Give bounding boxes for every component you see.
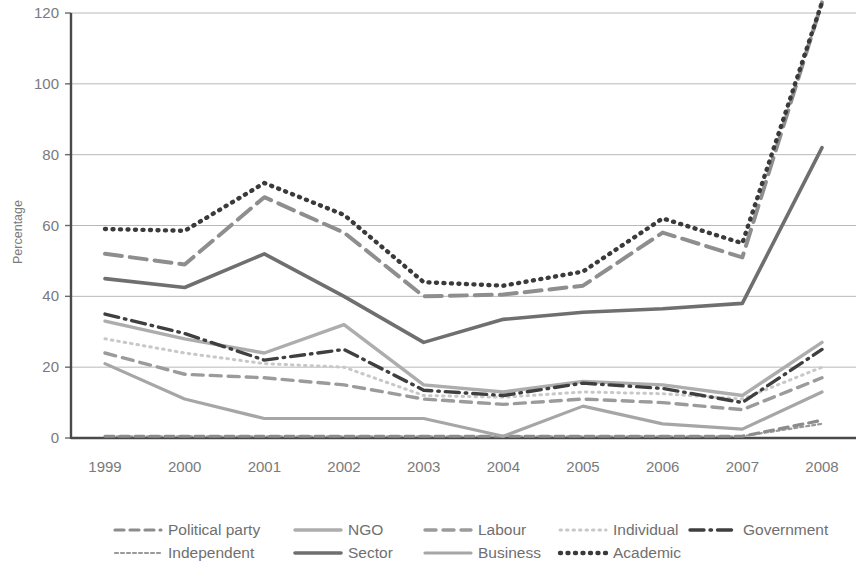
chart-figure: 020406080100120 199920002001200220032004… [0,0,863,567]
legend-label-individual: Individual [613,521,679,538]
gridlines [71,13,856,367]
x-tick-label: 2003 [407,458,440,475]
y-axis-title: Percentage [11,200,25,264]
x-tick-label: 2004 [487,458,520,475]
line-chart: 020406080100120 199920002001200220032004… [0,0,863,567]
y-tick-label: 40 [42,287,59,304]
legend-label-ngo: NGO [348,521,383,538]
x-tick-label: 2002 [327,458,360,475]
x-tick-label: 2007 [726,458,759,475]
series-line-labour [105,353,822,410]
y-tick-label: 120 [34,4,59,21]
legend-label-independent: Independent [168,544,255,561]
x-tick-label: 2006 [646,458,679,475]
x-tick-label: 2001 [248,458,281,475]
y-tick-label: 0 [51,429,59,446]
series-lines [105,2,822,436]
legend-label-labour: Labour [478,521,526,538]
x-axis-tick-labels: 1999200020012002200320042005200620072008 [88,458,838,475]
y-tick-label: 100 [34,75,59,92]
x-tick-label: 2000 [168,458,201,475]
legend-label-sector: Sector [348,544,393,561]
series-line-labour-upper [105,2,822,296]
legend-label-business: Business [478,544,541,561]
legend-label-political-party: Political party [168,521,260,538]
x-tick-label: 1999 [88,458,121,475]
y-tick-label: 20 [42,358,59,375]
chart-legend: Political partyNGOLabourIndividualGovern… [115,521,829,561]
y-axis-tick-labels: 020406080100120 [34,4,59,446]
y-tick-label: 80 [42,146,59,163]
x-tick-label: 2005 [566,458,599,475]
x-tick-label: 2008 [805,458,838,475]
legend-label-academic: Academic [613,544,681,561]
series-line-sector [105,148,822,343]
legend-label-government: Government [743,521,829,538]
y-tick-label: 60 [42,217,59,234]
